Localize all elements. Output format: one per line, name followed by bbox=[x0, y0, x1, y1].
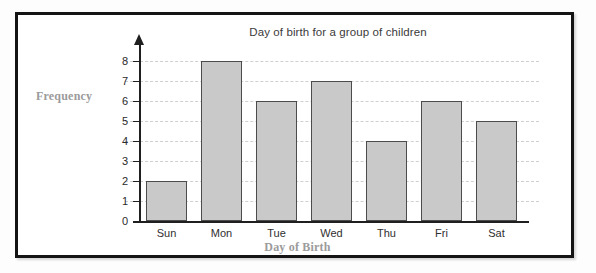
gridline-8 bbox=[125, 61, 539, 62]
bar-thu[interactable] bbox=[366, 141, 407, 221]
y-tick-2: 2 bbox=[133, 181, 140, 182]
screenshot-root: Day of birth for a group of children Fre… bbox=[0, 0, 596, 273]
y-axis-title: Frequency bbox=[36, 89, 92, 104]
bar-sun[interactable] bbox=[146, 181, 187, 221]
x-label-tue: Tue bbox=[256, 227, 297, 239]
bar-fri[interactable] bbox=[421, 101, 462, 221]
y-tick-label-7: 7 bbox=[122, 75, 128, 88]
x-axis-line bbox=[133, 221, 529, 223]
bar-wed[interactable] bbox=[311, 81, 352, 221]
x-label-wed: Wed bbox=[311, 227, 352, 239]
bar-mon[interactable] bbox=[201, 61, 242, 221]
x-label-fri: Fri bbox=[421, 227, 462, 239]
y-tick-6: 6 bbox=[133, 101, 140, 102]
x-label-mon: Mon bbox=[201, 227, 242, 239]
y-tick-label-1: 1 bbox=[122, 195, 128, 208]
x-label-thu: Thu bbox=[366, 227, 407, 239]
x-label-sun: Sun bbox=[146, 227, 187, 239]
x-label-sat: Sat bbox=[476, 227, 517, 239]
y-tick-8: 8 bbox=[133, 61, 140, 62]
y-tick-label-4: 4 bbox=[122, 135, 128, 148]
y-axis-line bbox=[139, 43, 141, 221]
bar-sat[interactable] bbox=[476, 121, 517, 221]
x-axis-title: Day of Birth bbox=[18, 240, 577, 255]
y-tick-3: 3 bbox=[133, 161, 140, 162]
bar-tue[interactable] bbox=[256, 101, 297, 221]
y-tick-label-8: 8 bbox=[122, 55, 128, 68]
y-tick-label-6: 6 bbox=[122, 95, 128, 108]
y-tick-1: 1 bbox=[133, 201, 140, 202]
y-tick-label-3: 3 bbox=[122, 155, 128, 168]
y-tick-4: 4 bbox=[133, 141, 140, 142]
y-tick-5: 5 bbox=[133, 121, 140, 122]
chart-frame: Day of birth for a group of children Fre… bbox=[15, 12, 574, 258]
y-tick-label-0: 0 bbox=[122, 215, 128, 228]
y-tick-7: 7 bbox=[133, 81, 140, 82]
y-tick-label-2: 2 bbox=[122, 175, 128, 188]
y-axis-arrow-icon bbox=[134, 34, 144, 45]
plot-area: 8 7 6 5 4 3 2 1 0 bbox=[125, 35, 545, 221]
y-tick-label-5: 5 bbox=[122, 115, 128, 128]
